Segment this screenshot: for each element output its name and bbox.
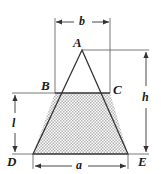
dimension-label-h: h	[142, 91, 149, 103]
vertex-label-b: B	[41, 79, 50, 92]
dimension-label-a: a	[76, 159, 82, 171]
vertex-label-e: E	[138, 155, 147, 168]
dimension-label-b: b	[79, 15, 85, 27]
vertex-label-a: A	[73, 36, 82, 49]
vertex-label-c: C	[113, 83, 122, 96]
vertex-label-d: D	[7, 155, 16, 168]
dimension-label-l: l	[12, 117, 15, 129]
geometry-figure: A B C D E b h l a	[0, 0, 161, 174]
